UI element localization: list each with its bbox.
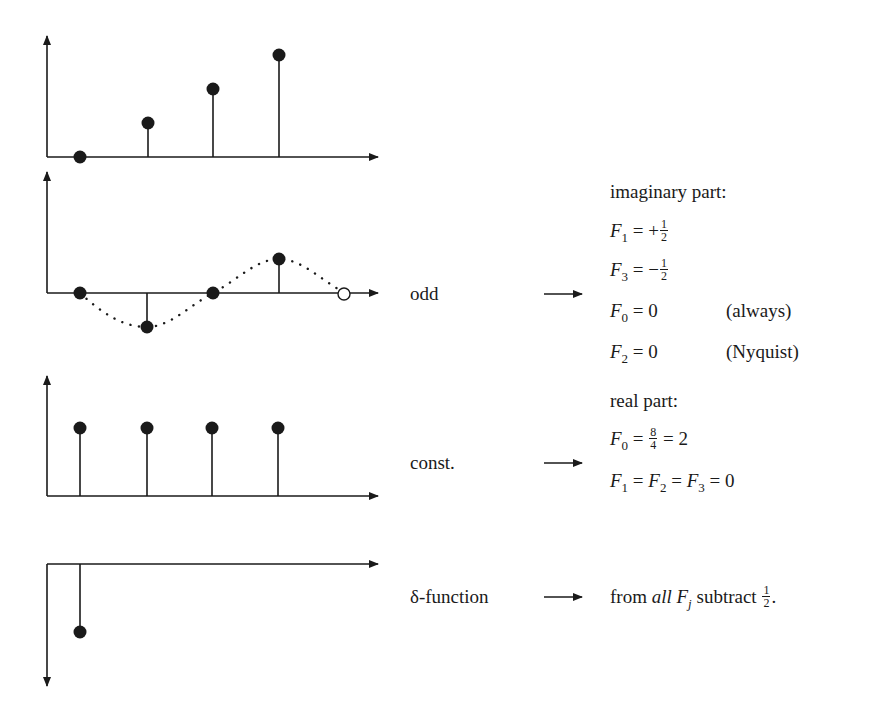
odd-plot [47, 172, 378, 334]
real-heading: real part: [610, 390, 678, 412]
ramp-plot [47, 36, 378, 164]
imaginary-line-f1: F1 = +12 [610, 220, 669, 245]
sample-dot [273, 253, 286, 266]
imaginary-line-f3: F3 = −12 [610, 259, 669, 284]
delta-plot [47, 564, 378, 686]
sample-dot [142, 117, 155, 130]
label-delta-function: δ-function [410, 586, 489, 608]
sample-dot [141, 321, 154, 334]
open-sample-circle [338, 288, 350, 300]
label-odd: odd [410, 283, 439, 305]
sample-dot [74, 422, 87, 435]
real-line-f0: F0 = 84 = 2 [610, 428, 688, 453]
fraction: 12 [660, 218, 668, 243]
fraction: 12 [660, 257, 668, 282]
note-nyquist: (Nyquist) [726, 341, 799, 363]
sample-dot [74, 626, 87, 639]
sample-dot [74, 287, 87, 300]
sample-dot [273, 49, 286, 62]
sample-dot [141, 422, 154, 435]
sample-dot [272, 422, 285, 435]
imaginary-line-f0: F0 = 0 [610, 300, 658, 322]
imaginary-heading: imaginary part: [610, 181, 727, 203]
note-always: (always) [726, 300, 791, 322]
fraction: 84 [649, 426, 657, 451]
real-line-rest: F1 = F2 = F3 = 0 [610, 470, 734, 492]
sample-dot [207, 83, 220, 96]
fraction: 12 [762, 584, 770, 609]
sample-dot [74, 151, 87, 164]
imaginary-line-f2: F2 = 0 [610, 341, 658, 363]
const-plot [47, 376, 378, 496]
delta-result: from all Fj subtract 12. [610, 586, 776, 611]
sample-dot [206, 422, 219, 435]
label-const: const. [410, 452, 455, 474]
sample-dot [207, 287, 220, 300]
